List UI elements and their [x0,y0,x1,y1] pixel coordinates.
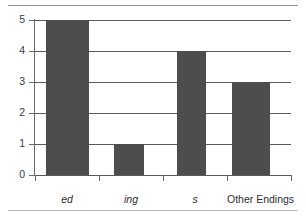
plot-area [35,20,291,175]
x-tick-mark-0 [35,175,36,181]
x-axis-label-ed: ed [35,193,99,206]
x-axis-label-s: s [163,193,227,206]
bar-ed [46,20,89,175]
bar-s [177,51,206,175]
bar-other-endings [232,82,270,175]
x-tick-mark-1 [99,175,100,181]
y-tick-label-2: 2 [19,106,25,119]
y-tick-label-3: 3 [19,75,25,88]
x-axis-label-ing: ing [99,193,163,206]
bar-ing [114,144,144,175]
y-tick-label-0: 0 [19,168,25,181]
y-tick-label-1: 1 [19,137,25,150]
x-tick-mark-4 [291,175,292,181]
x-tick-mark-3 [227,175,228,181]
x-tick-mark-2 [163,175,164,181]
y-tick-label-5: 5 [19,13,25,26]
y-tick-label-4: 4 [19,44,25,57]
x-axis-label-other-endings: Other Endings [227,193,291,206]
bar-chart-figure: 5 4 3 2 1 0 ed ing s Other Endings [0,0,306,217]
top-divider-rule [8,5,298,6]
bottom-divider-rule [8,210,298,211]
